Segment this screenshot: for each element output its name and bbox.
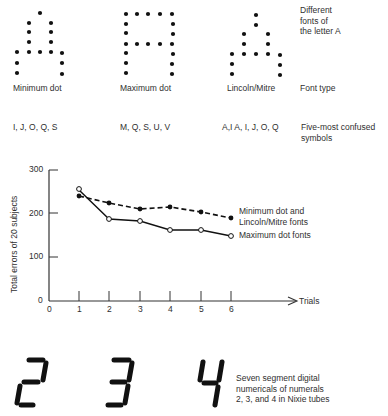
seven-segment-caption: Seven segment digital numericals of nume…: [236, 373, 330, 405]
font-name-minimum-dot: Minimum dot: [13, 83, 62, 94]
x-axis-label: Trials: [299, 296, 319, 307]
series-label-solid: Maximum dot fonts: [239, 230, 311, 241]
seven-segment-caption-line: Seven segment digital: [236, 373, 330, 384]
y-tick-300: 300: [29, 164, 43, 175]
series-min-dot-lincoln-markers: [77, 194, 234, 221]
confused-lincoln-mitre: A,I A, I, J, O, Q: [222, 122, 279, 133]
seven-segment-caption-line: numericals of numerals: [236, 384, 330, 395]
font-name-lincoln-mitre: Lincoln/Mitre: [227, 83, 275, 94]
series-min-dot-lincoln-line: [79, 196, 231, 218]
y-axis-label: Total errors of 20 subjects: [9, 196, 20, 293]
font-name-maximum-dot: Maximum dot: [120, 83, 171, 94]
x-tick-6: 6: [229, 304, 234, 315]
seven-segment-caption-line: 2, 3, and 4 in Nixie tubes: [236, 394, 330, 405]
y-tick-100: 100: [29, 251, 43, 262]
confused-minimum-dot: I, J, O, Q, S: [13, 122, 57, 133]
fonts-caption: Different fonts of the letter A: [300, 5, 341, 37]
maximum-dot-letter-a: [124, 12, 175, 76]
x-tick-3: 3: [138, 304, 143, 315]
digit-2-glyph: [17, 360, 46, 405]
confused-symbols-label: Five-most confused symbols: [301, 122, 375, 143]
confused-maximum-dot: M, Q, S, U, V: [120, 122, 170, 133]
series-max-dot-markers: [77, 187, 234, 239]
fonts-caption-line: the letter A: [300, 26, 341, 37]
confused-label-line: symbols: [301, 133, 375, 144]
x-tick-1: 1: [77, 304, 82, 315]
x-tick-2: 2: [107, 304, 112, 315]
font-type-label: Font type: [300, 83, 335, 94]
series-label-dashed: Minimum dot and Lincoln/Mitre fonts: [239, 206, 308, 227]
y-tick-200: 200: [29, 208, 43, 219]
confused-label-line: Five-most confused: [301, 122, 375, 133]
series-label-line: Lincoln/Mitre fonts: [239, 217, 308, 228]
digit-4-glyph: [200, 362, 222, 405]
seven-segment-digits: [17, 360, 222, 405]
x-tick-0: 0: [47, 304, 52, 315]
minimum-dot-letter-a: [15, 11, 64, 76]
x-tick-4: 4: [168, 304, 173, 315]
series-label-line: Minimum dot and: [239, 206, 308, 217]
fonts-caption-line: fonts of: [300, 16, 341, 27]
figure-graphics: [0, 0, 388, 416]
lincoln-mitre-letter-a: [230, 13, 282, 77]
digit-3-glyph: [108, 360, 132, 405]
x-tick-5: 5: [199, 304, 204, 315]
fonts-caption-line: Different: [300, 5, 341, 16]
y-tick-0: 0: [38, 295, 43, 306]
